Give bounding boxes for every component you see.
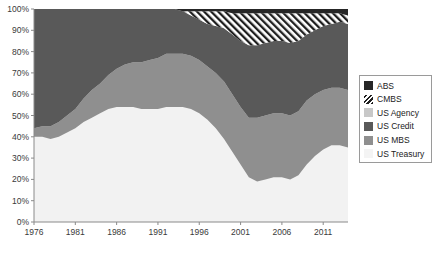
x-tick-label: 2011 (314, 227, 333, 237)
legend-swatch-icon (364, 108, 373, 117)
y-tick-label: 60% (12, 89, 29, 99)
legend-item-label: US Agency (377, 109, 419, 118)
y-tick-label: 20% (12, 174, 29, 184)
y-tick-label: 70% (12, 68, 29, 78)
x-axis-ticks: 19761981198619911996200120062011 (25, 222, 333, 237)
y-tick-label: 40% (12, 132, 29, 142)
legend-item-label: US Credit (377, 122, 414, 131)
legend-item-us-credit[interactable]: US Credit (360, 120, 431, 134)
series-areas (34, 9, 348, 222)
legend-swatch-icon (364, 136, 373, 145)
legend-item-abs[interactable]: ABS (360, 79, 431, 93)
legend-swatch-icon (364, 81, 373, 90)
legend-item-label: CMBS (377, 95, 402, 104)
y-tick-label: 0% (17, 217, 30, 227)
legend-swatch-icon (364, 122, 373, 131)
x-tick-label: 2001 (231, 227, 250, 237)
x-tick-label: 1996 (190, 227, 209, 237)
chart-legend: ABSCMBSUS AgencyUS CreditUS MBSUS Treasu… (359, 75, 432, 163)
stacked-area-chart: 0%10%20%30%40%50%60%70%80%90%100% 197619… (0, 0, 434, 253)
x-tick-label: 1991 (148, 227, 167, 237)
legend-item-us-treasury[interactable]: US Treasury (360, 147, 431, 161)
legend-item-cmbs[interactable]: CMBS (360, 93, 431, 107)
x-tick-label: 2006 (272, 227, 291, 237)
legend-swatch-icon (364, 149, 373, 158)
x-tick-label: 1976 (25, 227, 44, 237)
y-tick-label: 10% (12, 196, 29, 206)
y-tick-label: 50% (12, 111, 29, 121)
y-tick-label: 100% (7, 4, 29, 14)
legend-swatch-icon (364, 95, 373, 104)
legend-item-label: US MBS (377, 136, 410, 145)
y-tick-label: 80% (12, 47, 29, 57)
legend-item-us-mbs[interactable]: US MBS (360, 133, 431, 147)
x-tick-label: 1986 (107, 227, 126, 237)
y-tick-label: 30% (12, 153, 29, 163)
y-tick-label: 90% (12, 25, 29, 35)
legend-item-us-agency[interactable]: US Agency (360, 106, 431, 120)
legend-item-label: US Treasury (377, 150, 424, 159)
legend-item-label: ABS (377, 82, 394, 91)
x-tick-label: 1981 (66, 227, 85, 237)
y-axis-ticks: 0%10%20%30%40%50%60%70%80%90%100% (7, 4, 34, 227)
